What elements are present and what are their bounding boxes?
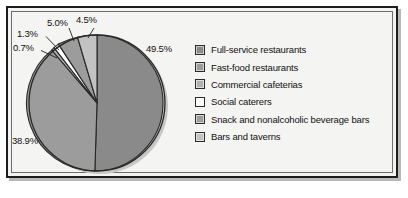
legend-swatch-icon — [195, 62, 205, 72]
legend-swatch-icon — [195, 79, 205, 89]
pie-slice-full-service-restaurants — [95, 35, 163, 171]
legend-swatch-icon — [195, 97, 205, 107]
legend-label: Full-service restaurants — [211, 44, 306, 55]
legend-item-fast-food-restaurants: Fast-food restaurants — [195, 58, 395, 75]
legend-label: Snack and nonalcoholic beverage bars — [211, 114, 369, 125]
pie-label-commercial-cafeterias: 0.7% — [13, 42, 34, 53]
legend-item-bars-and-taverns: Bars and taverns — [195, 128, 395, 145]
legend-label: Bars and taverns — [211, 131, 280, 142]
pie-label-social-caterers: 1.3% — [17, 28, 38, 39]
legend-item-commercial-cafeterias: Commercial cafeterias — [195, 76, 395, 93]
pie-label-snack-and-nonalcoholic-beverage-bars: 5.0% — [47, 17, 68, 28]
chart-figure: 49.5% 38.9% 4.5% 5.0% 1.3% 0.7% Full-ser… — [0, 0, 408, 198]
pie-label-full-service-restaurants: 49.5% — [146, 43, 172, 54]
legend-item-full-service-restaurants: Full-service restaurants — [195, 41, 395, 58]
legend-label: Fast-food restaurants — [211, 62, 298, 73]
leader-line-social-caterers — [46, 37, 59, 51]
chart-legend: Full-service restaurants Fast-food resta… — [195, 41, 395, 145]
pie-label-fast-food-restaurants: 38.9% — [12, 135, 38, 146]
legend-label: Commercial cafeterias — [211, 79, 302, 90]
legend-swatch-icon — [195, 132, 205, 142]
legend-label: Social caterers — [211, 96, 272, 107]
legend-item-snack-and-nonalcoholic-beverage-bars: Snack and nonalcoholic beverage bars — [195, 111, 395, 128]
legend-item-social-caterers: Social caterers — [195, 93, 395, 110]
legend-swatch-icon — [195, 114, 205, 124]
legend-swatch-icon — [195, 45, 205, 55]
pie-label-bars-and-taverns: 4.5% — [76, 14, 97, 25]
